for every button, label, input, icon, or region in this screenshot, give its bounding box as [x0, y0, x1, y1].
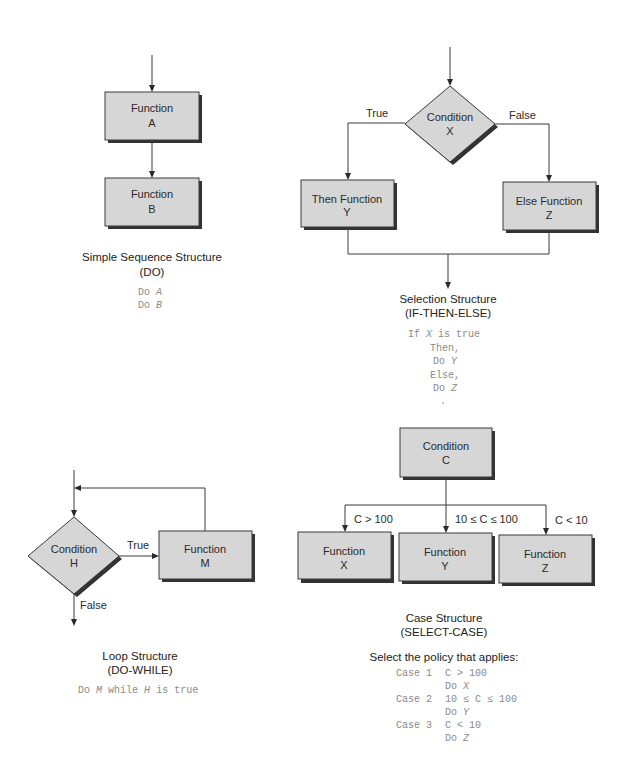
selection-subtitle: (IF-THEN-ELSE) [405, 307, 491, 319]
else-function-line2: Z [546, 209, 553, 221]
condition-x-line2: X [446, 125, 454, 137]
arrowhead-icon [152, 553, 159, 559]
condition-h-diamond: Condition H [28, 517, 122, 597]
policy-3-cond: C < 10 [445, 720, 481, 731]
function-m-line2: M [200, 557, 209, 569]
arrowhead-icon [149, 171, 155, 178]
function-m-box: Function M [159, 531, 255, 582]
condition-x-line1: Condition [427, 111, 473, 123]
policy-1-case: Case 1 [396, 668, 432, 679]
false-branch-line [495, 124, 549, 176]
function-a-line2: A [148, 117, 156, 129]
branch-label-3: C < 10 [555, 514, 588, 526]
policy-1-do: Do X [445, 681, 470, 692]
function-z-box: Function Z [499, 535, 595, 586]
function-x-line2: X [340, 559, 348, 571]
function-a-box: Function A [105, 92, 202, 143]
function-y-line2: Y [441, 560, 449, 572]
arrowhead-icon [447, 79, 453, 86]
loop-false-label: False [80, 599, 107, 611]
true-label: True [366, 107, 388, 119]
function-m-line1: Function [184, 543, 226, 555]
arrowhead-icon [443, 526, 449, 533]
function-b-line1: Function [131, 188, 173, 200]
function-b-box: Function B [105, 178, 202, 229]
arrowhead-icon [345, 173, 351, 180]
condition-c-line1: Condition [423, 440, 469, 452]
branch-label-2: 10 ≤ C ≤ 100 [455, 513, 518, 525]
arrowhead-icon [149, 85, 155, 92]
function-z-line2: Z [542, 562, 549, 574]
sequence-title: Simple Sequence Structure [82, 251, 222, 263]
function-x-box: Function X [298, 532, 394, 583]
sequence-code-line2: Do B [138, 300, 162, 311]
condition-c-box: Condition C [400, 428, 495, 480]
loop-back-line [80, 488, 205, 531]
else-function-box: Else Function Z [503, 182, 599, 233]
selection-code-else: Else, [430, 370, 460, 381]
condition-h-line1: Condition [51, 543, 97, 555]
arrowhead-icon [71, 619, 77, 626]
loop-code: Do M while H is true [78, 685, 198, 696]
policy-3-do: Do Z [445, 733, 470, 744]
condition-x-diamond: Condition X [405, 86, 498, 165]
policy-1-cond: C > 100 [445, 668, 487, 679]
selection-title: Selection Structure [399, 293, 496, 305]
selection-code-dot: . [440, 396, 446, 407]
function-b-line2: B [148, 203, 155, 215]
case-structure: Condition C C > 100 10 ≤ C ≤ 100 C < 10 … [298, 428, 595, 744]
condition-c-line2: C [442, 454, 450, 466]
loop-true-label: True [127, 539, 149, 551]
arrowhead-icon [74, 485, 81, 491]
then-function-line2: Y [343, 206, 351, 218]
arrowhead-icon [71, 510, 77, 517]
policy-3-case: Case 3 [396, 720, 432, 731]
loop-title: Loop Structure [102, 650, 177, 662]
selection-structure: Condition X True False Then Function Y E… [301, 47, 599, 407]
function-y-line1: Function [424, 546, 466, 558]
else-function-line1: Else Function [516, 195, 583, 207]
arrowhead-icon [543, 528, 549, 535]
arrowhead-icon [342, 525, 348, 532]
function-y-box: Function Y [399, 533, 495, 584]
then-function-box: Then Function Y [301, 180, 397, 230]
function-a-line1: Function [131, 102, 173, 114]
function-x-line1: Function [323, 545, 365, 557]
selection-code-do-z: Do Z [433, 383, 458, 394]
branch-label-1: C > 100 [354, 513, 393, 525]
arrowhead-icon [546, 175, 552, 182]
policy-2-do: Do Y [445, 707, 470, 718]
then-function-line1: Then Function [312, 193, 382, 205]
arrowhead-icon [445, 282, 451, 289]
false-label: False [509, 109, 536, 121]
case-subtitle: (SELECT-CASE) [401, 626, 488, 638]
true-branch-line [348, 123, 405, 174]
sequence-structure: Function A Function B Simple Sequence St… [82, 55, 222, 311]
selection-code-then: Then, [430, 343, 460, 354]
sequence-code-line1: Do A [138, 287, 162, 298]
loop-subtitle: (DO-WHILE) [107, 664, 172, 676]
condition-h-line2: H [70, 557, 78, 569]
policy-2-cond: 10 ≤ C ≤ 100 [445, 694, 517, 705]
policy-2-case: Case 2 [396, 694, 432, 705]
selection-code-do-y: Do Y [433, 356, 458, 367]
loop-structure: Condition H True Function M False Loop S… [28, 470, 255, 696]
case-title: Case Structure [406, 612, 483, 624]
function-z-line1: Function [524, 548, 566, 560]
policy-list: Case 1 C > 100 Do X Case 2 10 ≤ C ≤ 100 … [396, 668, 517, 744]
control-structures-diagram: Function A Function B Simple Sequence St… [0, 0, 630, 782]
policy-heading: Select the policy that applies: [370, 651, 519, 663]
sequence-subtitle: (DO) [140, 266, 165, 278]
selection-code-if: If X is true [408, 329, 480, 340]
